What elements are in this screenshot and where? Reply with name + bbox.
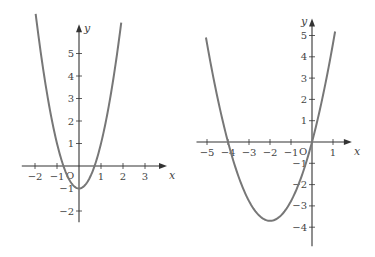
y-tick-label: −4 <box>292 222 307 233</box>
y-tick-label: 4 <box>68 71 74 82</box>
right-graph: −5−4−3−2−11−4−3−2−112345xyO <box>197 15 361 246</box>
x-tick-label: 1 <box>330 147 336 158</box>
left-graph: −2−1123−2−112345xyO <box>22 14 176 222</box>
x-tick-label: −5 <box>200 147 215 158</box>
y-axis-arrow-icon <box>76 24 82 32</box>
y-axis-arrow-icon <box>309 18 315 26</box>
y-tick-label: 5 <box>301 30 307 41</box>
y-axis-label: y <box>83 22 91 35</box>
y-tick-label: 5 <box>68 48 74 59</box>
x-tick-label: 3 <box>142 171 148 182</box>
y-tick-label: 2 <box>68 116 74 127</box>
x-axis-label: x <box>354 145 361 158</box>
x-tick-label: −1 <box>284 147 299 158</box>
x-tick-label: −4 <box>221 147 236 158</box>
x-tick-label: 2 <box>120 171 126 182</box>
x-axis-label: x <box>169 169 176 182</box>
x-tick-label: 1 <box>98 171 104 182</box>
x-axis-arrow-icon <box>159 163 167 169</box>
y-tick-label: 3 <box>68 93 74 104</box>
y-tick-label: 2 <box>301 94 307 105</box>
y-tick-label: 1 <box>301 115 307 126</box>
parabola-curve <box>206 31 335 220</box>
origin-label: O <box>299 146 307 157</box>
y-tick-label: 4 <box>301 51 307 62</box>
x-axis-arrow-icon <box>344 139 352 145</box>
x-tick-label: −1 <box>50 171 65 182</box>
y-tick-label: 1 <box>68 138 74 149</box>
y-tick-label: 3 <box>301 73 307 84</box>
y-tick-label: −2 <box>59 206 74 217</box>
y-tick-label: −3 <box>292 200 307 211</box>
y-axis-label: y <box>300 15 308 28</box>
graphs-canvas: −2−1123−2−112345xyO−5−4−3−2−11−4−3−2−112… <box>0 0 375 257</box>
x-tick-label: −3 <box>242 147 257 158</box>
x-tick-label: −2 <box>263 147 278 158</box>
x-tick-label: −2 <box>28 171 43 182</box>
